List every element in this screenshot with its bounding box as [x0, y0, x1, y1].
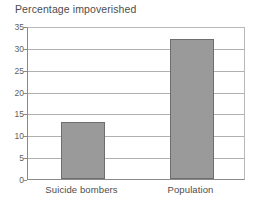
bar — [170, 39, 214, 179]
y-tick-mark — [23, 180, 27, 181]
bar — [61, 122, 105, 179]
x-category-label: Suicide bombers — [45, 184, 117, 195]
y-axis-tick-marks — [0, 27, 27, 180]
x-category-label: Population — [168, 184, 214, 195]
chart-title: Percentage impoverished — [15, 3, 136, 15]
bar-chart-figure: Percentage impoverished 05101520253035 S… — [0, 0, 261, 204]
plot-area — [27, 27, 245, 180]
